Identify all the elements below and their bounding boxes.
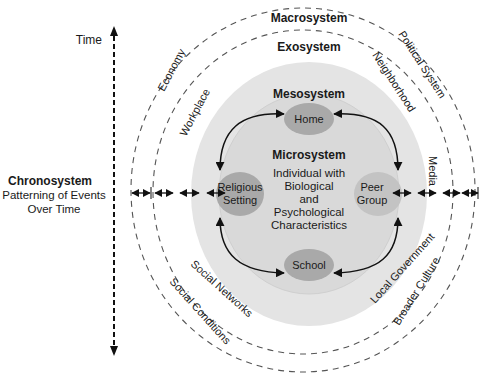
religious-label-1: Religious xyxy=(217,181,263,193)
center-line-2: Biological xyxy=(284,180,333,192)
media-label: Media xyxy=(427,156,439,187)
setting-religious: Religious Setting xyxy=(216,172,264,216)
setting-school: School xyxy=(284,249,334,281)
setting-peer: Peer Group xyxy=(354,172,402,216)
microsystem-title: Microsystem xyxy=(272,148,345,162)
peer-label-1: Peer xyxy=(360,181,384,193)
religious-label-2: Setting xyxy=(223,194,257,206)
chronosystem-line2: Over Time xyxy=(27,203,80,215)
center-line-1: Individual with xyxy=(273,167,345,179)
mesosystem-title: Mesosystem xyxy=(273,87,345,101)
arrow-down-icon xyxy=(110,346,118,356)
economy-label: Economy xyxy=(155,46,187,93)
school-label: School xyxy=(292,259,326,271)
center-line-3: and xyxy=(299,193,318,205)
ecological-systems-diagram: Time Chronosystem Patterning of Events O… xyxy=(0,0,486,374)
chronosystem-label: Chronosystem Patterning of Events Over T… xyxy=(2,174,106,215)
arrow-up-icon xyxy=(110,26,118,36)
time-label: Time xyxy=(76,33,103,47)
setting-home: Home xyxy=(284,103,334,135)
home-label: Home xyxy=(294,113,323,125)
chronosystem-title: Chronosystem xyxy=(8,174,92,188)
peer-label-2: Group xyxy=(357,194,388,206)
chronosystem-line1: Patterning of Events xyxy=(2,189,106,201)
center-line-4: Psychological xyxy=(274,206,344,218)
center-line-5: Characteristics xyxy=(271,219,347,231)
exosystem-title: Exosystem xyxy=(277,40,340,54)
macrosystem-title: Macrosystem xyxy=(271,11,348,25)
